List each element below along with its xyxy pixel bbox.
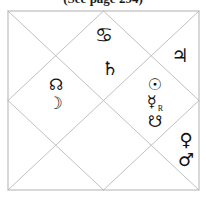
rahu-north-node-glyph: ☊ bbox=[49, 77, 63, 93]
astrology-chart-screenshot: (See page 294) ♋♃♄☊☽☉☿R☋♀♂ bbox=[0, 0, 206, 200]
venus-glyph: ♀ bbox=[179, 131, 192, 149]
sun-glyph-symbol: ☉ bbox=[148, 75, 162, 94]
jupiter-glyph-symbol: ♃ bbox=[171, 44, 188, 66]
cancer-sign-glyph: ♋ bbox=[95, 25, 113, 45]
mercury-glyph-symbol: ☿ bbox=[147, 92, 157, 111]
ketu-south-node-glyph-symbol: ☋ bbox=[148, 112, 162, 131]
venus-glyph-symbol: ♀ bbox=[179, 129, 192, 150]
mars-glyph-symbol: ♂ bbox=[178, 149, 194, 170]
moon-glyph: ☽ bbox=[47, 95, 62, 112]
moon-glyph-symbol: ☽ bbox=[47, 93, 62, 113]
cancer-sign-glyph-symbol: ♋ bbox=[95, 23, 113, 47]
rahu-north-node-glyph-symbol: ☊ bbox=[49, 75, 63, 94]
saturn-glyph-symbol: ♄ bbox=[101, 57, 118, 79]
ketu-south-node-glyph: ☋ bbox=[148, 114, 162, 130]
mars-glyph: ♂ bbox=[178, 151, 194, 169]
mercury-glyph: ☿R bbox=[147, 94, 163, 113]
sun-glyph: ☉ bbox=[148, 77, 162, 93]
jupiter-glyph: ♃ bbox=[171, 46, 188, 65]
glyph-layer: ♋♃♄☊☽☉☿R☋♀♂ bbox=[0, 0, 206, 200]
saturn-glyph: ♄ bbox=[101, 59, 118, 78]
